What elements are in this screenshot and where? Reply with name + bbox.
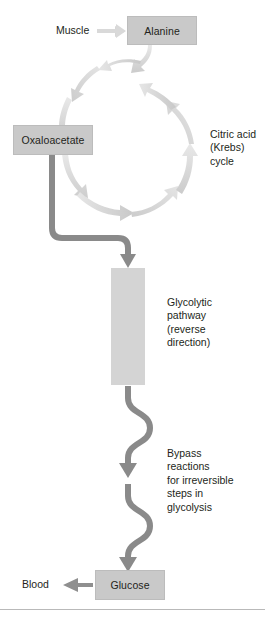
arrow-alanine-to-cycle [131,45,152,73]
label-blood: Blood [22,578,49,591]
node-alanine-label: Alanine [144,25,180,37]
cycle-arrow-lower-left [62,150,88,198]
arrow-muscle-to-alanine [97,24,126,38]
diagram-canvas: Alanine Oxaloacetate Glucose Muscle Bloo… [0,0,265,618]
node-alanine[interactable]: Alanine [127,16,197,45]
bottom-divider [0,609,265,610]
node-glucose-label: Glucose [110,579,149,591]
cycle-arrow-right [176,143,198,194]
node-glucose[interactable]: Glucose [95,570,165,600]
bypass-curve-2 [119,484,150,572]
cycle-arrow-bottom-right [131,186,178,217]
arrow-glucose-to-blood [63,578,93,592]
note-bypass-reactions: Bypass reactions for irreversible steps … [167,447,234,514]
glycolysis-band [111,268,145,385]
note-krebs-cycle: Citric acid (Krebs) cycle [210,128,256,168]
bypass-curve-1 [119,386,150,478]
node-oxaloacetate-label: Oxaloacetate [21,134,84,146]
node-oxaloacetate[interactable]: Oxaloacetate [13,125,93,155]
cycle-arrow-upper-left [71,66,100,102]
label-muscle: Muscle [56,24,89,37]
note-glycolytic-pathway: Glycolytic pathway (reverse direction) [167,296,212,350]
cycle-arrow-top-right [139,83,176,110]
